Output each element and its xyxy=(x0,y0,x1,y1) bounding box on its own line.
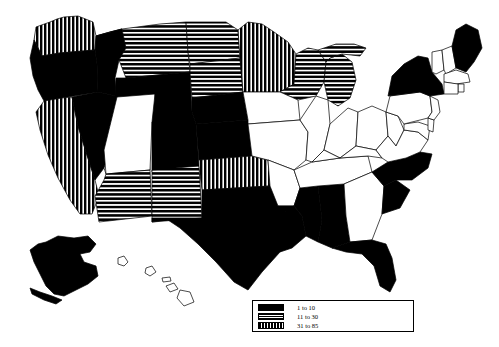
state-ND xyxy=(186,22,240,64)
state-AK xyxy=(30,236,98,296)
state-MI xyxy=(324,54,356,106)
legend-row-3: 31 to 85 xyxy=(258,321,413,330)
state-FL xyxy=(332,240,396,292)
legend-label-1: 1 to 10 xyxy=(297,303,315,312)
map-legend: 1 to 10 11 to 30 31 to 85 xyxy=(252,300,414,332)
us-choropleth-map: 1 to 10 11 to 30 31 to 85 xyxy=(0,0,499,347)
state-HI-1 xyxy=(118,256,128,266)
legend-label-3: 31 to 85 xyxy=(297,321,318,330)
states-layer xyxy=(30,16,482,306)
state-CT xyxy=(444,82,458,94)
state-NM xyxy=(152,166,202,222)
state-RI xyxy=(458,84,464,92)
state-HI-2 xyxy=(145,266,156,276)
state-HI-5 xyxy=(177,290,194,306)
legend-label-2: 11 to 30 xyxy=(297,312,318,321)
state-GA xyxy=(344,172,384,242)
state-SD xyxy=(190,58,243,98)
legend-swatch-vertical-lines-icon xyxy=(258,322,284,329)
state-ME xyxy=(452,24,482,72)
legend-row-1: 1 to 10 xyxy=(258,303,413,312)
state-AZ xyxy=(95,170,152,222)
state-WA xyxy=(34,16,96,56)
legend-swatch-solid-icon xyxy=(258,304,284,311)
state-OK xyxy=(199,156,270,190)
state-IA xyxy=(243,92,300,124)
legend-row-2: 11 to 30 xyxy=(258,312,413,321)
state-HI-4 xyxy=(166,283,178,292)
state-NE xyxy=(192,92,248,124)
state-KS xyxy=(196,120,252,160)
legend-swatch-horizontal-lines-icon xyxy=(258,313,284,320)
map-svg xyxy=(0,0,499,347)
state-MN xyxy=(238,22,296,92)
state-HI-3 xyxy=(162,277,171,282)
state-DE xyxy=(428,118,434,132)
